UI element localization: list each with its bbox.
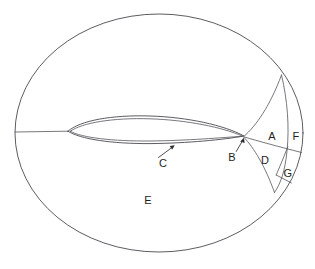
airfoil-inner-grid-contour: [70, 119, 242, 141]
wake-divider-lower-radial: [244, 137, 275, 192]
outer-farfield-ellipse: [15, 14, 303, 252]
region-label-b: B: [228, 152, 236, 163]
region-label-e: E: [144, 195, 152, 206]
airfoil-outer-contour: [68, 116, 244, 144]
inlet-cut-line: [15, 131, 68, 132]
region-label-f: F: [293, 131, 300, 142]
leader-arrowhead-b: [240, 138, 244, 143]
region-label-c: C: [159, 158, 167, 169]
region-label-g: G: [284, 168, 293, 179]
wake-divider-upper-radial: [244, 75, 282, 136]
region-label-d: D: [261, 155, 269, 166]
region-label-a: A: [268, 131, 276, 142]
figure-root: A B C D E F G: [0, 0, 315, 269]
